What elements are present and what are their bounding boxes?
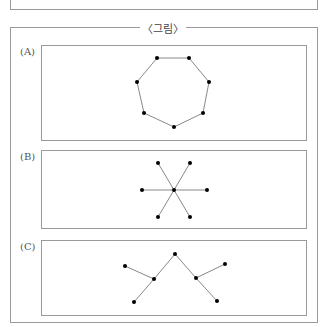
graph-drawings [0,0,324,327]
tree-graph [125,254,225,302]
heptagon-graph [137,58,209,127]
